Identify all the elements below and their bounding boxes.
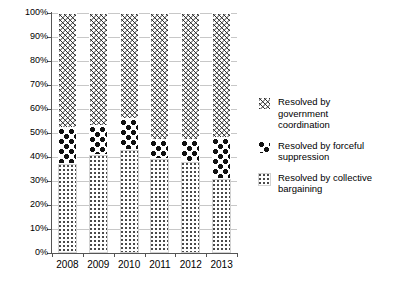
dark-blocks-swatch	[258, 141, 271, 154]
x-axis-tick-label-2013: 2013	[202, 259, 242, 270]
y-axis-tick-label: 100%	[25, 8, 48, 17]
plot-area	[52, 13, 237, 253]
bar-2012	[181, 13, 200, 253]
bar-segment-2008-series-2	[58, 13, 77, 128]
bar-segment-2013-series-2	[212, 13, 231, 138]
y-axis-tick-label: 20%	[30, 200, 48, 209]
y-axis-tick-label: 90%	[30, 32, 48, 41]
y-axis-tick-label: 60%	[30, 104, 48, 113]
bar-2011	[150, 13, 169, 253]
bar-segment-2012-series-2	[181, 13, 200, 140]
bar-segment-2008-series-0	[58, 164, 77, 253]
x-axis-tick-mark	[52, 253, 53, 257]
bar-segment-2011-series-0	[150, 159, 169, 253]
legend-item-label: Resolved by collective bargaining	[278, 172, 372, 195]
bar-segment-2010-series-0	[120, 150, 139, 253]
y-axis-tick-label: 10%	[30, 224, 48, 233]
bar-2009	[89, 13, 108, 253]
bar-segment-2012-series-1	[181, 140, 200, 162]
y-axis-tick-label: 70%	[30, 80, 48, 89]
bar-segment-2013-series-0	[212, 179, 231, 253]
bar-segment-2011-series-1	[150, 140, 169, 159]
bar-segment-2011-series-2	[150, 13, 169, 140]
bar-segment-2013-series-1	[212, 138, 231, 179]
bar-segment-2008-series-1	[58, 128, 77, 164]
x-axis-tick-mark	[114, 253, 115, 257]
legend-item-1: Resolved by forceful suppression	[258, 140, 394, 163]
bar-2013	[212, 13, 231, 253]
chart-legend: Resolved by government coordinationResol…	[258, 96, 394, 204]
legend-item-label: Resolved by government coordination	[278, 96, 330, 131]
bar-segment-2012-series-0	[181, 162, 200, 253]
zigzag-waves-swatch	[258, 97, 271, 110]
x-axis-tick-mark	[83, 253, 84, 257]
bar-segment-2009-series-0	[89, 155, 108, 253]
bar-2010	[120, 13, 139, 253]
bar-segment-2009-series-1	[89, 126, 108, 155]
stacked-bar-chart: 0%10%20%30%40%50%60%70%80%90%100% 200820…	[0, 0, 394, 282]
bar-2008	[58, 13, 77, 253]
x-axis-tick-mark	[237, 253, 238, 257]
legend-item-label: Resolved by forceful suppression	[278, 140, 364, 163]
x-axis-tick-mark	[175, 253, 176, 257]
legend-item-2: Resolved by collective bargaining	[258, 172, 394, 195]
y-axis-tick-label: 40%	[30, 152, 48, 161]
light-dots-swatch	[258, 173, 271, 186]
bar-segment-2010-series-2	[120, 13, 139, 119]
y-axis-tick-label: 50%	[30, 128, 48, 137]
bar-segment-2009-series-2	[89, 13, 108, 126]
y-axis-tick-label: 30%	[30, 176, 48, 185]
x-axis-tick-mark	[206, 253, 207, 257]
y-axis-tick-label: 0%	[35, 248, 48, 257]
legend-item-0: Resolved by government coordination	[258, 96, 394, 131]
bar-segment-2010-series-1	[120, 119, 139, 150]
x-axis-tick-mark	[145, 253, 146, 257]
y-axis-tick-label: 80%	[30, 56, 48, 65]
